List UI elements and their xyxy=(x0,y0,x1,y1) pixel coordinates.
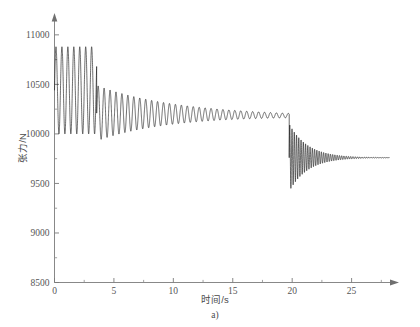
y-axis-arrow-icon xyxy=(52,13,58,22)
y-tick-label: 9500 xyxy=(31,179,50,189)
y-tick-label: 10000 xyxy=(26,129,50,139)
chart-canvas: 850090009500100001050011000 0510152025 张… xyxy=(0,0,420,327)
tension-time-chart: 850090009500100001050011000 0510152025 张… xyxy=(0,0,420,327)
x-tick-label: 5 xyxy=(112,286,117,296)
x-tick-label: 20 xyxy=(287,286,297,296)
x-axis-title: 时间/s xyxy=(201,294,229,305)
axis-lines xyxy=(52,13,399,285)
x-tick-label: 25 xyxy=(347,286,357,296)
y-tick-label: 11000 xyxy=(26,30,50,40)
x-tick-label: 15 xyxy=(228,286,238,296)
y-axis-title: 张力/N xyxy=(17,133,28,163)
figure-caption: a) xyxy=(211,310,218,321)
y-axis-tick-labels: 850090009500100001050011000 xyxy=(26,30,50,288)
x-tick-label: 0 xyxy=(52,286,57,296)
x-tick-label: 10 xyxy=(169,286,179,296)
y-tick-label: 9000 xyxy=(31,228,50,238)
tension-data-trace xyxy=(55,47,390,189)
y-tick-label: 8500 xyxy=(31,278,50,288)
y-tick-label: 10500 xyxy=(26,80,50,90)
x-axis-arrow-icon xyxy=(390,280,399,286)
